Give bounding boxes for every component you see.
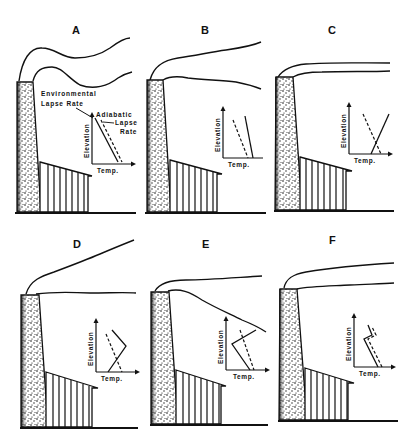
environmental-lapse-line (245, 116, 253, 158)
panel-b-drawing: Elevation Temp. (130, 0, 270, 220)
svg-text:Elevation: Elevation (83, 124, 90, 158)
plume-lower-edge (293, 71, 390, 77)
lapse-rate-graph: Elevation Temp. (217, 316, 270, 381)
panel-b-coning: B Elevation Temp. (130, 0, 268, 215)
panel-f-drawing: Elevation Temp. (270, 220, 415, 443)
label-adiabatic: Adiabatic (96, 111, 132, 118)
panel-f-trapping: F Elevation Temp. (270, 220, 408, 435)
adiabatic-lapse-line (101, 120, 122, 162)
environmental-lapse-line (371, 114, 389, 154)
plume-upper-edge (155, 276, 262, 291)
adiabatic-lapse-line (363, 114, 381, 154)
svg-text:Elevation: Elevation (214, 118, 221, 152)
lapse-rate-graph: Elevation Temp. (214, 106, 263, 169)
svg-text:Elevation: Elevation (345, 327, 352, 361)
panel-a-looping: A Elevation Temp. Environmental (0, 0, 138, 215)
svg-text:Temp.: Temp. (354, 157, 376, 165)
plume-upper-edge (278, 63, 390, 77)
panel-d-lofting: D Elevation Temp. (0, 220, 138, 435)
plume-lower-edge (33, 67, 132, 87)
panel-e-drawing: Elevation Temp. (130, 220, 270, 443)
svg-text:Elevation: Elevation (217, 330, 224, 364)
environmental-lapse-line (364, 325, 378, 367)
lapse-rate-graph: Elevation Temp. (340, 102, 393, 165)
panel-e-fumigation: E Elevation Temp. (130, 220, 268, 435)
svg-text:Elevation: Elevation (87, 332, 94, 366)
label-environmental: Environmental (41, 90, 97, 97)
plume-lower-edge (297, 283, 394, 289)
svg-text:Temp.: Temp. (233, 373, 255, 381)
plume-lower-edge (36, 292, 136, 294)
svg-text:Temp.: Temp. (228, 161, 250, 169)
panel-d-drawing: Elevation Temp. (0, 220, 140, 443)
building (170, 160, 222, 212)
label-lapse-rate: Lapse Rate (41, 100, 84, 108)
svg-text:Elevation: Elevation (340, 114, 347, 148)
panel-c-fanning: C Elevation Temp. (270, 0, 408, 215)
adiabatic-lapse-line (233, 120, 248, 158)
panel-a-drawing: Elevation Temp. Environmental Lapse Rate… (0, 0, 140, 220)
building-stripes (53, 374, 89, 427)
building-stripes (48, 164, 84, 212)
building (300, 157, 352, 210)
building (46, 372, 98, 427)
panel-c-drawing: Elevation Temp. (270, 0, 415, 220)
plume-upper-edge (26, 240, 134, 294)
plume-upper-edge (150, 42, 261, 80)
svg-text:Temp.: Temp. (359, 370, 381, 378)
svg-text:Temp.: Temp. (101, 375, 123, 383)
svg-text:Temp.: Temp. (97, 167, 119, 175)
environmental-lapse-line (108, 330, 126, 372)
plume-lower-edge (168, 290, 266, 332)
adiabatic-lapse-line (106, 334, 122, 372)
plume-lower-edge (163, 77, 261, 89)
lapse-rate-graph: Elevation Temp. (345, 313, 396, 378)
